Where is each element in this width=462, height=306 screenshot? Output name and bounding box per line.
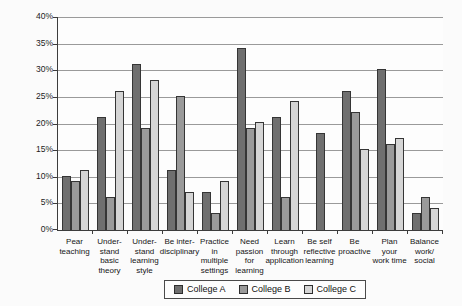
legend-swatch-icon: [304, 285, 313, 294]
bar-group-6: [233, 17, 268, 230]
y-axis-tick-label: 0%: [41, 225, 53, 234]
bar: [62, 176, 71, 230]
bar: [167, 170, 176, 230]
bar: [71, 181, 80, 230]
y-axis-tick-label: 40%: [36, 12, 53, 21]
x-axis-tick: [442, 230, 443, 234]
plot-area: [57, 17, 443, 231]
x-axis-tick: [267, 230, 268, 234]
bar: [316, 133, 325, 230]
bar: [351, 112, 360, 230]
bar: [412, 213, 421, 230]
legend-swatch-icon: [174, 285, 183, 294]
legend-label: College C: [317, 284, 357, 294]
x-axis-tick: [232, 230, 233, 234]
bar-group-5: [198, 17, 233, 230]
bar: [246, 128, 255, 230]
x-axis-tick: [127, 230, 128, 234]
bar: [281, 197, 290, 230]
bar: [132, 64, 141, 230]
x-axis-tick: [92, 230, 93, 234]
bar-group-3: [128, 17, 163, 230]
y-axis-tick-label: 30%: [36, 65, 53, 74]
x-axis-tick: [337, 230, 338, 234]
bar: [237, 48, 246, 230]
bar: [342, 91, 351, 230]
bar-group-2: [93, 17, 128, 230]
bar: [115, 91, 124, 230]
bar: [430, 208, 439, 230]
bar: [185, 192, 194, 230]
bar: [211, 213, 220, 230]
bar-group-1: [58, 17, 93, 230]
bar: [255, 122, 264, 230]
bar: [360, 149, 369, 230]
bar: [176, 96, 185, 230]
bar: [386, 144, 395, 230]
bar: [80, 170, 89, 230]
x-axis-tick: [197, 230, 198, 234]
y-axis-tick-label: 10%: [36, 172, 53, 181]
legend-item: College C: [304, 284, 357, 294]
bar: [377, 69, 386, 230]
bar: [395, 138, 404, 230]
bar: [202, 192, 211, 230]
bar: [97, 117, 106, 230]
y-axis-tick-label: 5%: [41, 198, 53, 207]
bar: [141, 128, 150, 230]
x-axis-category-labels: PearteachingUnder-standbasictheoryUnder-…: [57, 237, 442, 279]
bar-chart: 0%5%10%15%20%25%30%35%40% PearteachingUn…: [0, 0, 462, 306]
bar-group-8: [303, 17, 338, 230]
bar-group-11: [408, 17, 443, 230]
legend: College ACollege BCollege C: [164, 280, 366, 299]
legend-item: College B: [239, 284, 291, 294]
y-axis-tick-label: 25%: [36, 92, 53, 101]
x-axis-tick: [162, 230, 163, 234]
y-axis-tick-labels: 0%5%10%15%20%25%30%35%40%: [22, 17, 53, 230]
bar: [220, 181, 229, 230]
x-axis-tick: [302, 230, 303, 234]
category-label: Balancework/social: [387, 237, 462, 266]
bar-group-10: [373, 17, 408, 230]
legend-label: College B: [252, 284, 291, 294]
x-axis-tick: [372, 230, 373, 234]
bar: [272, 117, 281, 230]
legend-label: College A: [187, 284, 226, 294]
y-axis-tick-label: 20%: [36, 119, 53, 128]
legend-item: College A: [174, 284, 226, 294]
bar-group-4: [163, 17, 198, 230]
y-axis-tick-label: 35%: [36, 39, 53, 48]
bar: [106, 197, 115, 230]
bar-group-7: [268, 17, 303, 230]
legend-swatch-icon: [239, 285, 248, 294]
bar: [150, 80, 159, 230]
bar: [421, 197, 430, 230]
bar: [290, 101, 299, 230]
y-axis-tick-label: 15%: [36, 145, 53, 154]
x-axis-tick: [407, 230, 408, 234]
bar-group-9: [338, 17, 373, 230]
